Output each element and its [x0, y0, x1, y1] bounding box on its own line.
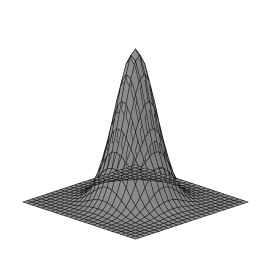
gaussian-surface-figure: Three-dimensional wireframe mesh surface…	[0, 0, 267, 256]
surface-mesh-canvas	[0, 0, 267, 256]
